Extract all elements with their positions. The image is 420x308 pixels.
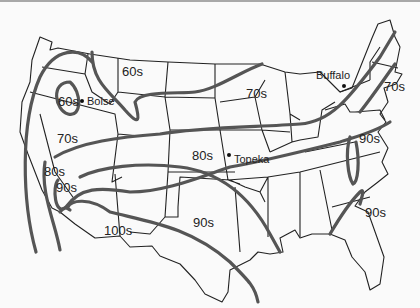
temp-label-nw-60s: 60s xyxy=(122,65,143,78)
temp-label-boise-60s: 60s xyxy=(58,95,79,108)
temp-label-desert-100s: 100s xyxy=(104,224,132,237)
temperature-map: 60s 60s 70s 70s 70s 80s 80s 90s 90s 90s … xyxy=(0,0,420,308)
city-label-buffalo: Buffalo xyxy=(316,70,350,81)
city-label-topeka: Topeka xyxy=(234,154,269,165)
temp-label-west-70s: 70s xyxy=(57,132,78,145)
temp-label-midatlantic-90s: 90s xyxy=(359,132,380,145)
city-dot-topeka xyxy=(227,153,231,157)
temp-label-sw-80s: 80s xyxy=(44,165,65,178)
temp-label-texas-90s: 90s xyxy=(193,216,214,229)
temp-label-southeast-90s: 90s xyxy=(365,206,386,219)
temp-label-sw-90s: 90s xyxy=(56,181,77,194)
temp-label-ne-70s: 70s xyxy=(384,80,405,93)
temp-label-plains-70s: 70s xyxy=(246,87,267,100)
city-dot-buffalo xyxy=(342,84,346,88)
temp-label-central-80s: 80s xyxy=(192,149,213,162)
city-dot-boise xyxy=(80,99,84,103)
city-label-boise: Boise xyxy=(87,96,115,107)
